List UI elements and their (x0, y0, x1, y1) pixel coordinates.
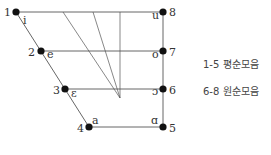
label-ipa-e: e (47, 48, 54, 61)
dot-6 (159, 85, 166, 92)
converge-line-1 (63, 12, 120, 98)
dot-1 (12, 8, 19, 15)
label-ipa-o: o (152, 48, 159, 61)
vowel-dots (12, 8, 166, 130)
dot-8 (159, 8, 166, 15)
label-num-1: 1 (4, 6, 11, 19)
dot-2 (37, 47, 44, 54)
label-ipa-open-o: ɔ (152, 85, 158, 98)
dot-7 (159, 47, 166, 54)
front-line (16, 12, 89, 127)
label-num-8: 8 (169, 6, 176, 19)
dot-5 (159, 123, 166, 130)
label-num-3: 3 (53, 84, 60, 97)
label-num-4: 4 (77, 122, 84, 135)
chart-lines (16, 12, 163, 127)
label-ipa-script-a: ɑ (151, 114, 158, 127)
label-num-6: 6 (169, 84, 176, 97)
label-ipa-a: a (92, 114, 99, 127)
label-ipa-u: u (152, 9, 159, 22)
label-ipa-epsilon: ɛ (71, 87, 77, 100)
legend-rounded: 6-8 원순모음 (203, 83, 259, 98)
label-num-5: 5 (169, 122, 176, 135)
label-ipa-i: i (23, 14, 27, 27)
vowel-chart: 1 2 3 4 5 6 7 8 i e ɛ a ɑ ɔ o u (0, 0, 271, 155)
label-num-2: 2 (28, 46, 35, 59)
converge-line-2 (93, 12, 120, 98)
label-num-7: 7 (169, 46, 176, 59)
dot-3 (61, 85, 68, 92)
legend-unrounded: 1-5 평순모음 (203, 56, 259, 71)
